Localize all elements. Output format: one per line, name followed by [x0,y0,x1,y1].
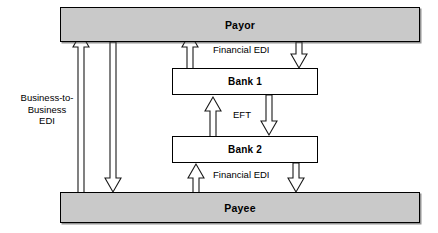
label-financial-edi-top: Financial EDI [213,44,270,56]
label-financial-edi-bottom: Financial EDI [213,169,270,181]
arrow-payor-to-payee [105,42,121,192]
node-bank2-label: Bank 2 [228,144,262,155]
node-bank2: Bank 2 [172,136,318,163]
node-bank1: Bank 1 [172,68,318,95]
arrow-payor-to-bank1 [291,42,307,68]
arrow-bank1-to-bank2 [261,95,277,135]
label-business-to-business-edi: Business-to- Business EDI [4,92,90,127]
label-eft: EFT [233,109,251,121]
node-bank1-label: Bank 1 [228,76,262,87]
node-payee-label: Payee [224,202,255,214]
diagram-canvas: Payor Bank 1 Bank 2 Payee Business-to- B… [0,0,438,233]
arrow-payee-to-bank2 [188,164,204,193]
arrow-bank2-to-payee [288,163,304,192]
node-payee: Payee [60,192,420,223]
node-payor-label: Payor [225,19,255,31]
arrow-bank2-to-bank1 [205,97,221,137]
node-payor: Payor [60,7,420,42]
